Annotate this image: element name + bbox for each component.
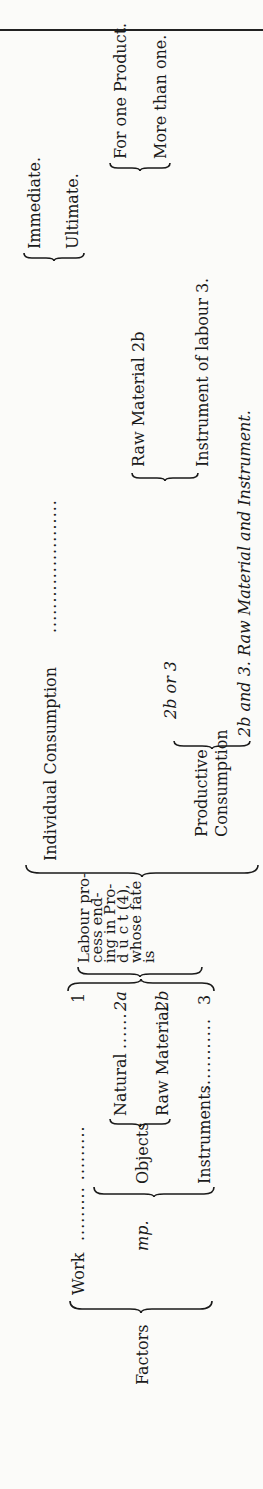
raw-material-options-brace-icon [108,161,172,171]
option-more-than-one: More than one. [152,35,170,159]
option-for-one-product: For one Product. [112,23,130,159]
productive-consumption-brace-icon [172,739,252,749]
work-label: Work [70,1253,88,1295]
individual-consumption-leader: ...................... [42,499,60,633]
diagram-frame: Factors Work ......... ......... 1 mp. O… [0,0,263,1489]
objects-brace-icon [108,1117,172,1127]
individual-option-ultimate: Ultimate. [64,173,82,249]
fate-brace-icon [24,863,260,877]
mp-label: mp. [134,1221,152,1252]
branch-2b-or-3-label: 2b or 3 [162,661,180,719]
branch-raw-material-label: Raw Material 2b [130,332,148,467]
instruments-number: 3 [196,995,214,1005]
raw-material-label: Raw Material [154,1006,172,1116]
individual-consumption-label: Individual Consumption [42,667,60,861]
factors-closing-brace-icon [66,979,216,993]
individual-consumption-brace-icon [22,251,86,261]
work-leader: ......... ......... [70,1125,88,1241]
natural-label: Natural [112,1053,130,1116]
work-number: 1 [70,993,88,1003]
factors-label: Factors [134,1325,152,1385]
instruments-label: Instruments [196,1085,214,1184]
labour-process-text: Labour pro- cess end- ing in Pro- d u c … [78,873,156,963]
branch-2b-and-3-label: 2b and 3. Raw Material and Instrument. [236,410,254,737]
individual-option-immediate: Immediate. [26,157,44,249]
objects-label: Objects [134,1123,152,1184]
factors-brace-icon [68,1299,214,1313]
labour-process-brace-icon [76,965,204,977]
branch-2b-or-3-brace-icon [130,471,200,481]
raw-material-number: 2b [154,991,172,1011]
branch-instrument-label: Instrument of labour 3. [194,278,212,467]
natural-number: 2a [112,991,130,1011]
mp-brace-icon [92,1185,216,1197]
instruments-leader: ............ [196,1018,214,1091]
header-rule [0,29,263,31]
natural-leader: ...... [112,1012,130,1049]
